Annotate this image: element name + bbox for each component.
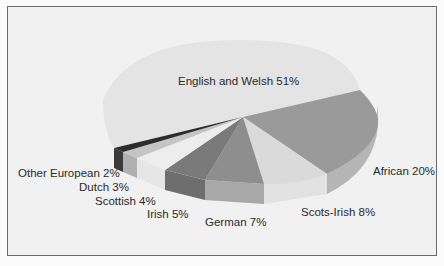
slice-label-german: German 7% [205, 216, 266, 228]
slice-label-scottish: Scottish 4% [95, 195, 156, 207]
slice-label-dutch: Dutch 3% [79, 181, 129, 193]
slice-label-english-welsh: English and Welsh 51% [178, 75, 299, 87]
slice-label-other-european: Other European 2% [18, 167, 120, 179]
slice-label-irish: Irish 5% [147, 208, 189, 220]
slice-label-african: African 20% [373, 165, 435, 177]
slice-label-scots-irish: Scots-Irish 8% [301, 206, 375, 218]
